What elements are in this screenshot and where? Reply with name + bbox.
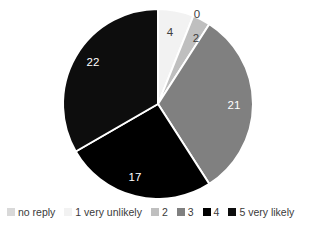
legend-item[interactable]: 5 very likely [228, 206, 294, 218]
chart-legend: no reply1 very unlikely2345 very likely [0, 200, 323, 224]
pie-slice-value-label: 21 [228, 99, 241, 111]
pie-slice-value-label: 4 [167, 26, 174, 38]
pie-slice-value-label: 2 [193, 32, 199, 44]
legend-swatch-icon [7, 208, 15, 216]
legend-swatch-icon [177, 208, 185, 216]
legend-item[interactable]: 3 [177, 206, 194, 218]
legend-item[interactable]: 2 [151, 206, 168, 218]
legend-item-label: 2 [162, 206, 168, 218]
pie-slices-group [63, 9, 253, 198]
legend-item-label: 3 [188, 206, 194, 218]
pie-slice-value-label: 0 [194, 8, 200, 20]
legend-swatch-icon [228, 208, 236, 216]
legend-item-label: no reply [18, 206, 55, 218]
pie-svg: 042211722 [0, 0, 323, 198]
legend-item-label: 4 [214, 206, 220, 218]
legend-swatch-icon [203, 208, 211, 216]
legend-item[interactable]: no reply [7, 206, 55, 218]
legend-item-label: 1 very unlikely [75, 206, 142, 218]
legend-item-label: 5 very likely [239, 206, 294, 218]
pie-chart-figure: 042211722 no reply1 very unlikely2345 ve… [0, 0, 323, 233]
legend-item[interactable]: 1 very unlikely [64, 206, 142, 218]
legend-item[interactable]: 4 [203, 206, 220, 218]
pie-plot-area: 042211722 [0, 0, 323, 198]
legend-swatch-icon [151, 208, 159, 216]
legend-swatch-icon [64, 208, 72, 216]
pie-slice-value-label: 17 [129, 171, 142, 183]
pie-slice-value-label: 22 [87, 56, 100, 68]
